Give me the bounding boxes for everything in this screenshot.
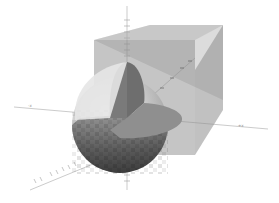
3d-viewport[interactable]: -x +x — [0, 0, 279, 203]
scene-canvas: -x +x — [0, 0, 279, 203]
x-neg-label: -x — [28, 103, 32, 108]
x-pos-label: +x — [238, 123, 244, 128]
